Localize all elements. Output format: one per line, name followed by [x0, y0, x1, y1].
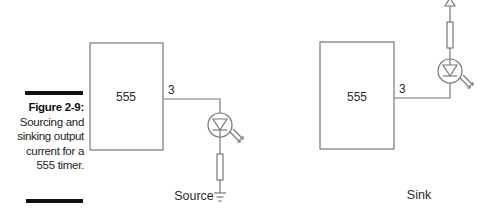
source-chip-label: 555	[116, 90, 136, 104]
circuit-diagram: 555 3 Source 555 3 Sink	[0, 0, 504, 210]
sink-resistor-icon	[447, 22, 453, 48]
source-pin-label: 3	[168, 83, 175, 97]
sink-led-icon	[438, 59, 473, 88]
source-title: Source	[174, 189, 214, 203]
source-resistor-icon	[217, 154, 223, 180]
sink-chip-label: 555	[347, 90, 367, 104]
source-led-icon	[208, 113, 243, 142]
sink-pin-label: 3	[399, 82, 406, 96]
sink-title: Sink	[407, 188, 432, 202]
source-ground-icon	[214, 193, 226, 201]
sink-supply-arrow-icon	[445, 0, 455, 6]
source-output-wire	[163, 99, 220, 113]
